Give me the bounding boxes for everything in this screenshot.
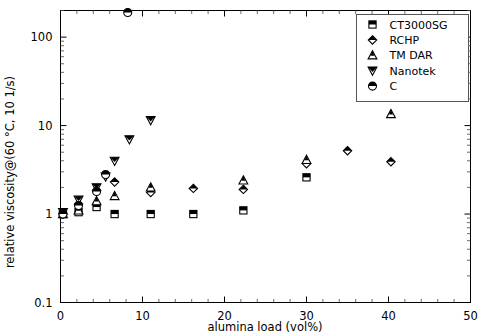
x-tick-label: 40 bbox=[381, 309, 396, 323]
y-tick-label: 10 bbox=[38, 119, 53, 133]
legend-label: RCHP bbox=[390, 34, 420, 47]
legend-label: TM DAR bbox=[389, 49, 434, 62]
legend-marker-c bbox=[369, 82, 377, 90]
y-tick-label: 1 bbox=[45, 207, 52, 221]
data-point bbox=[59, 210, 67, 218]
x-axis-title: alumina load (vol%) bbox=[207, 320, 322, 334]
legend-label: Nanotek bbox=[390, 65, 437, 78]
y-tick-label: 0.1 bbox=[34, 296, 52, 310]
legend-label: CT3000SG bbox=[390, 19, 448, 32]
data-point bbox=[190, 210, 197, 217]
data-point bbox=[75, 201, 83, 209]
legend-marker-ct3000sg bbox=[369, 21, 376, 28]
legend-label: C bbox=[390, 80, 398, 93]
data-point bbox=[303, 174, 310, 181]
x-tick-label: 0 bbox=[57, 309, 64, 323]
y-axis-title: relative viscosity@(60 °C, 10 1/s) bbox=[3, 76, 17, 268]
chart-legend: CT3000SGRCHPTM DARNanotekC bbox=[357, 15, 469, 102]
data-point bbox=[124, 8, 132, 16]
scatter-plot-canvas: 010203040500.1110100 CT3000SGRCHPTM DARN… bbox=[0, 0, 482, 336]
data-point bbox=[102, 170, 110, 178]
x-tick-label: 10 bbox=[135, 309, 150, 323]
data-point bbox=[147, 210, 154, 217]
chart-figure: 010203040500.1110100 CT3000SGRCHPTM DARN… bbox=[0, 0, 482, 336]
x-tick-label: 50 bbox=[463, 309, 478, 323]
data-point bbox=[111, 210, 118, 217]
y-tick-label: 100 bbox=[31, 30, 53, 44]
data-point bbox=[240, 207, 247, 214]
data-point bbox=[93, 187, 101, 195]
